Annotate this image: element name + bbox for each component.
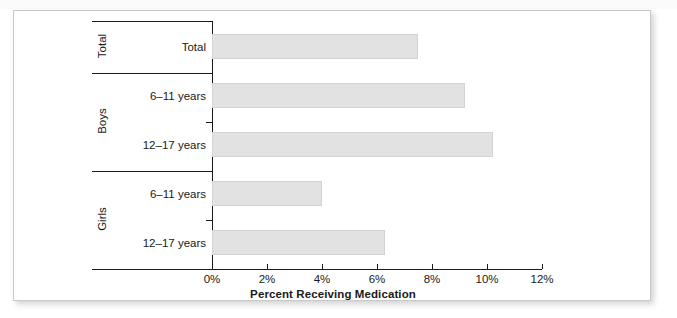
bar-girls-6-11 — [212, 181, 322, 206]
bar-total — [212, 34, 418, 59]
x-tick-1 — [267, 264, 268, 269]
x-tick-label-6: 12% — [530, 273, 553, 285]
group-label-total: Total — [96, 26, 108, 66]
x-tick-5 — [487, 264, 488, 269]
figure-card: Total Boys Girls Total 6–11 years 12–17 … — [13, 10, 651, 301]
x-tick-label-3: 6% — [369, 273, 386, 285]
bar-chart: Total Boys Girls Total 6–11 years 12–17 … — [14, 11, 652, 302]
x-tick-3 — [377, 264, 378, 269]
category-label-total: Total — [110, 41, 206, 53]
category-label-girls-6-11: 6–11 years — [110, 188, 206, 200]
x-tick-label-2: 4% — [314, 273, 331, 285]
bar-boys-6-11 — [212, 83, 465, 108]
group-rule-total-top — [92, 21, 212, 22]
x-tick-label-5: 10% — [475, 273, 498, 285]
group-rule-total-bottom — [92, 73, 212, 74]
group-label-boys: Boys — [96, 101, 108, 141]
group-label-girls: Girls — [96, 199, 108, 239]
x-axis-title: Percent Receiving Medication — [14, 288, 652, 300]
x-tick-4 — [432, 264, 433, 269]
x-tick-6 — [542, 264, 543, 269]
category-label-girls-12-17: 12–17 years — [110, 237, 206, 249]
x-tick-label-1: 2% — [259, 273, 276, 285]
category-label-boys-6-11: 6–11 years — [110, 90, 206, 102]
category-label-boys-12-17: 12–17 years — [110, 139, 206, 151]
inner-tick-girls — [206, 220, 212, 221]
inner-tick-boys — [206, 122, 212, 123]
page-top-cropped-strip — [0, 0, 677, 9]
bar-boys-12-17 — [212, 132, 493, 157]
x-tick-0 — [212, 264, 213, 269]
x-tick-label-4: 8% — [424, 273, 441, 285]
group-rule-boys-bottom — [92, 171, 212, 172]
x-tick-2 — [322, 264, 323, 269]
bar-girls-12-17 — [212, 230, 385, 255]
x-tick-label-0: 0% — [204, 273, 221, 285]
x-axis-line — [92, 269, 542, 270]
